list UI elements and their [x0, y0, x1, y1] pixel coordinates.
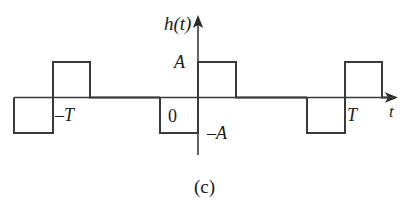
figure-caption: (c): [0, 176, 409, 198]
period-negative-label: –T: [55, 106, 74, 124]
amplitude-negative-label: –A: [207, 124, 227, 142]
origin-label: 0: [168, 107, 177, 125]
period-positive-label: T: [347, 106, 357, 124]
t-axis-label: t: [389, 103, 394, 120]
amplitude-positive-label: A: [174, 53, 185, 71]
figure-container: h(t) A –A –T 0 T t (c): [0, 0, 409, 214]
function-label-ht: h(t): [164, 14, 191, 33]
